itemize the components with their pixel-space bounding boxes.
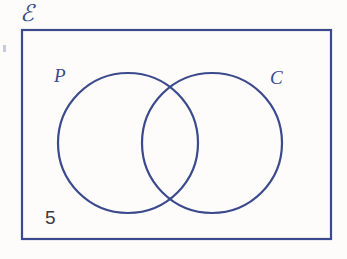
region-count-outside-both: 5 bbox=[45, 208, 56, 227]
set-label-p: P bbox=[54, 66, 66, 85]
scan-artifact-speck bbox=[3, 45, 6, 52]
set-label-c: C bbox=[270, 68, 283, 87]
universal-set-label: ℰ bbox=[20, 2, 34, 25]
universal-set-rectangle bbox=[22, 30, 331, 239]
venn-diagram-canvas: ℰ P C 5 bbox=[0, 0, 347, 259]
set-circle-p bbox=[58, 73, 198, 213]
set-circle-c bbox=[142, 73, 282, 213]
